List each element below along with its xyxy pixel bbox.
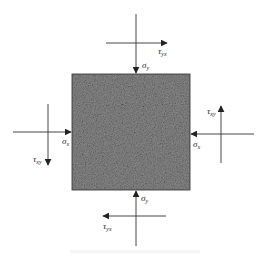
tau-xy-left-label: τxy (33, 155, 42, 165)
right-stress-cross (191, 106, 254, 163)
left-stress-cross (13, 104, 71, 165)
sigma-x-right-label: σx (193, 140, 200, 150)
tau-yx-bottom-label: τyx (103, 222, 112, 232)
top-stress-cross (106, 14, 167, 73)
sigma-x-left-label: σx (62, 137, 69, 147)
sigma-y-top-label: σy (142, 61, 149, 71)
faint-caption (70, 250, 200, 253)
tau-xy-right-label: τxy (207, 107, 216, 117)
sigma-y-bottom-label: σy (141, 194, 148, 204)
tau-yx-top-label: τyx (158, 47, 167, 57)
bottom-stress-cross (103, 191, 166, 246)
stress-element-block (72, 74, 190, 190)
